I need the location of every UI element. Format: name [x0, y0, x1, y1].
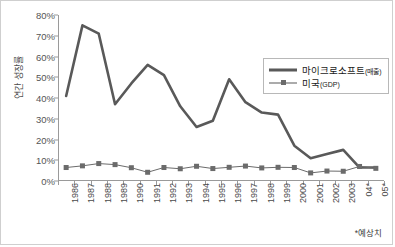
data-point-marker	[324, 169, 329, 174]
y-axis-tick-label: 0%	[21, 176, 55, 187]
x-axis-tick-label: 1998	[266, 183, 276, 203]
x-axis-tick-label: 1990	[135, 183, 145, 203]
legend-line-swatch-us-gdp-icon	[269, 77, 297, 88]
legend-item-us-gdp: 미국(GDP)	[269, 76, 382, 89]
data-point-marker	[292, 165, 297, 170]
chart-container: 연간 성장률 0%10%20%30%40%50%60%70%80% 198619…	[0, 0, 393, 245]
x-axis-tick-label: 1995	[217, 183, 227, 203]
y-axis-tick-label: 80%	[21, 10, 55, 21]
x-axis-tick-label: 1991	[152, 183, 162, 203]
legend-label-microsoft-main: 마이크로소프트	[302, 65, 365, 76]
legend-label-us-gdp: 미국(GDP)	[302, 76, 340, 90]
y-axis-tick-mark	[54, 35, 58, 36]
y-axis-tick-label: 10%	[21, 155, 55, 166]
data-point-marker	[259, 165, 264, 170]
legend-label-us-gdp-sub: (GDP)	[320, 81, 340, 88]
series-line-microsoft	[66, 25, 376, 167]
chart-legend: 마이크로소프트(매출) 미국(GDP)	[263, 58, 389, 94]
y-axis-tick-mark	[54, 77, 58, 78]
data-point-marker	[96, 161, 101, 166]
data-point-marker	[80, 163, 85, 168]
x-axis-tick-label: 2001	[315, 183, 325, 203]
x-axis-tick-label: 2003	[347, 183, 357, 203]
data-point-marker	[341, 169, 346, 174]
y-axis-tick-label: 20%	[21, 134, 55, 145]
legend-item-microsoft: 마이크로소프트(매출)	[269, 63, 382, 76]
data-point-marker	[276, 165, 281, 170]
x-axis-tick-labels: 1986198719881989199019911992199319941995…	[58, 183, 384, 225]
data-point-marker	[194, 164, 199, 169]
x-axis-tick-label: 1988	[103, 183, 113, 203]
series-lines	[58, 15, 384, 181]
legend-line-swatch-microsoft-icon	[269, 64, 297, 75]
legend-label-microsoft: 마이크로소프트(매출)	[302, 63, 382, 77]
data-point-marker	[178, 166, 183, 171]
data-point-marker	[373, 166, 378, 171]
y-axis-tick-label: 40%	[21, 93, 55, 104]
legend-label-microsoft-sub: (매출)	[365, 68, 382, 75]
x-axis-tick-label: 1994	[201, 183, 211, 203]
y-axis-tick-mark	[54, 139, 58, 140]
y-axis-tick-label: 30%	[21, 113, 55, 124]
y-axis-tick-mark	[54, 118, 58, 119]
y-axis-tick-mark	[54, 98, 58, 99]
data-point-marker	[113, 162, 118, 167]
x-axis-tick-label: 1999	[282, 183, 292, 203]
y-axis-tick-label: 70%	[21, 30, 55, 41]
y-axis-tick-label: 50%	[21, 72, 55, 83]
x-axis-tick-label: 2000	[298, 183, 308, 203]
x-axis-tick-label: 1997	[249, 183, 259, 203]
y-axis-tick-mark	[54, 15, 58, 16]
data-point-marker	[145, 170, 150, 175]
data-point-marker	[129, 165, 134, 170]
data-point-marker	[243, 164, 248, 169]
x-axis-tick-label: 1989	[119, 183, 129, 203]
chart-footnote: *예상치	[355, 226, 382, 238]
y-axis-tick-mark	[54, 160, 58, 161]
data-point-marker	[308, 170, 313, 175]
x-axis-tick-label: 1996	[233, 183, 243, 203]
y-axis-tick-labels: 0%10%20%30%40%50%60%70%80%	[21, 15, 55, 181]
plot-area	[58, 15, 384, 181]
data-point-marker	[161, 165, 166, 170]
x-axis-tick-label: 1987	[86, 183, 96, 203]
data-point-marker	[64, 165, 69, 170]
x-axis-tick-label: 1986	[70, 183, 80, 203]
y-axis-tick-label: 60%	[21, 51, 55, 62]
x-axis-tick-label: 04*	[364, 183, 374, 197]
data-point-marker	[210, 166, 215, 171]
x-axis-tick-label: 1993	[184, 183, 194, 203]
x-axis-tick-label: 2002	[331, 183, 341, 203]
data-point-marker	[357, 164, 362, 169]
legend-label-us-gdp-main: 미국	[302, 78, 320, 89]
x-axis-tick-label: 05*	[380, 183, 390, 197]
y-axis-tick-mark	[54, 56, 58, 57]
x-axis-tick-label: 1992	[168, 183, 178, 203]
data-point-marker	[227, 165, 232, 170]
